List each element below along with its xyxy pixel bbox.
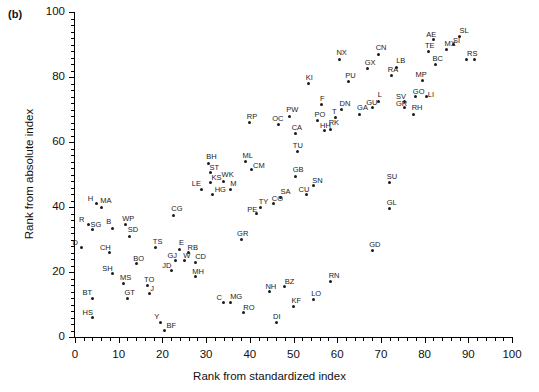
x-axis-major-tick bbox=[337, 338, 338, 343]
data-point-label: AE bbox=[426, 31, 436, 39]
x-axis-minor-tick bbox=[232, 338, 233, 341]
x-axis-minor-tick bbox=[495, 338, 496, 341]
x-axis-minor-tick bbox=[145, 338, 146, 341]
y-axis-minor-tick bbox=[71, 331, 74, 332]
y-axis-major-tick bbox=[69, 272, 74, 273]
y-axis-minor-tick bbox=[71, 175, 74, 176]
scatter-plot-figure: (b) Rank from absolute index Rank from s… bbox=[0, 0, 539, 392]
data-point-label: MS bbox=[120, 274, 131, 282]
y-axis-minor-tick bbox=[71, 298, 74, 299]
x-axis-major-tick bbox=[381, 338, 382, 343]
y-axis-minor-tick bbox=[71, 233, 74, 234]
data-point-label: KS bbox=[211, 174, 221, 182]
data-point bbox=[338, 58, 341, 61]
data-point bbox=[200, 188, 203, 191]
data-point bbox=[366, 67, 369, 70]
data-point bbox=[229, 188, 232, 191]
x-axis-minor-tick bbox=[154, 338, 155, 341]
data-point-label: B bbox=[106, 218, 111, 226]
y-axis-minor-tick bbox=[71, 116, 74, 117]
data-point-label: DN bbox=[340, 100, 351, 108]
data-point bbox=[390, 74, 393, 77]
data-point-label: RP bbox=[247, 113, 257, 121]
data-point bbox=[80, 246, 83, 249]
y-axis-minor-tick bbox=[71, 103, 74, 104]
data-point bbox=[240, 238, 243, 241]
data-point bbox=[445, 48, 448, 51]
data-point bbox=[222, 301, 225, 304]
data-point-label: LO bbox=[311, 290, 321, 298]
data-point-label: F bbox=[320, 95, 325, 103]
data-point-label: L bbox=[378, 91, 382, 99]
data-point-label: RB bbox=[188, 244, 198, 252]
y-axis-minor-tick bbox=[71, 90, 74, 91]
data-point-label: D bbox=[73, 239, 78, 247]
y-axis-minor-tick bbox=[71, 181, 74, 182]
x-axis-label: Rank from standardized index bbox=[0, 370, 539, 382]
data-point-label: TS bbox=[153, 238, 163, 246]
data-point bbox=[347, 80, 350, 83]
y-axis-minor-tick bbox=[71, 149, 74, 150]
x-axis-minor-tick bbox=[302, 338, 303, 341]
x-axis-minor-tick bbox=[355, 338, 356, 341]
data-point-label: C bbox=[217, 294, 222, 302]
data-point-label: SN bbox=[312, 177, 322, 185]
y-axis-minor-tick bbox=[71, 324, 74, 325]
x-axis-major-tick bbox=[468, 338, 469, 343]
data-point-label: RO bbox=[243, 304, 254, 312]
y-axis-minor-tick bbox=[71, 136, 74, 137]
data-point-label: HG bbox=[215, 186, 226, 194]
y-axis-minor-tick bbox=[71, 38, 74, 39]
x-axis-minor-tick bbox=[84, 338, 85, 341]
data-point bbox=[329, 128, 332, 131]
x-tick-label: 80 bbox=[405, 348, 445, 360]
x-axis-minor-tick bbox=[189, 338, 190, 341]
data-point bbox=[122, 282, 125, 285]
data-point-label: TO bbox=[144, 276, 154, 284]
data-point bbox=[473, 58, 476, 61]
x-tick-label: 40 bbox=[230, 348, 270, 360]
y-axis-minor-tick bbox=[71, 64, 74, 65]
x-axis-minor-tick bbox=[241, 338, 242, 341]
y-axis-minor-tick bbox=[71, 129, 74, 130]
x-axis-major-tick bbox=[162, 338, 163, 343]
data-point bbox=[154, 246, 157, 249]
data-point-label: PW bbox=[286, 106, 298, 114]
x-axis-minor-tick bbox=[503, 338, 504, 341]
x-axis-minor-tick bbox=[372, 338, 373, 341]
x-axis-major-tick bbox=[119, 338, 120, 343]
data-point bbox=[388, 181, 391, 184]
y-axis-minor-tick bbox=[71, 266, 74, 267]
data-point-label: SU bbox=[387, 173, 397, 181]
data-point-label: SA bbox=[280, 188, 290, 196]
data-point-label: BC bbox=[433, 55, 443, 63]
data-point-label: RN bbox=[329, 272, 340, 280]
data-point-label: BZ bbox=[285, 278, 295, 286]
x-axis-minor-tick bbox=[363, 338, 364, 341]
data-point-label: SG bbox=[90, 221, 101, 229]
y-axis-minor-tick bbox=[71, 259, 74, 260]
data-point-label: CA bbox=[292, 124, 302, 132]
y-axis-minor-tick bbox=[71, 162, 74, 163]
data-point-label: GD bbox=[369, 241, 380, 249]
x-axis-minor-tick bbox=[136, 338, 137, 341]
data-point-label: PO bbox=[315, 111, 326, 119]
data-point bbox=[395, 66, 398, 69]
data-point-label: BF bbox=[167, 322, 177, 330]
y-axis-major-tick bbox=[69, 337, 74, 338]
data-point-label: SD bbox=[128, 226, 138, 234]
data-point-label: ST bbox=[209, 164, 219, 172]
data-point bbox=[320, 103, 323, 106]
x-axis-minor-tick bbox=[328, 338, 329, 341]
data-point bbox=[100, 206, 103, 209]
data-point bbox=[244, 160, 247, 163]
data-point-label: BH bbox=[206, 153, 216, 161]
data-point bbox=[329, 280, 332, 283]
y-axis-major-tick bbox=[69, 142, 74, 143]
y-axis-major-tick bbox=[69, 12, 74, 13]
y-tick-label: 0 bbox=[31, 330, 65, 342]
data-point bbox=[124, 223, 127, 226]
data-point bbox=[458, 35, 461, 38]
x-axis-minor-tick bbox=[197, 338, 198, 341]
data-point-label: NX bbox=[336, 49, 346, 57]
